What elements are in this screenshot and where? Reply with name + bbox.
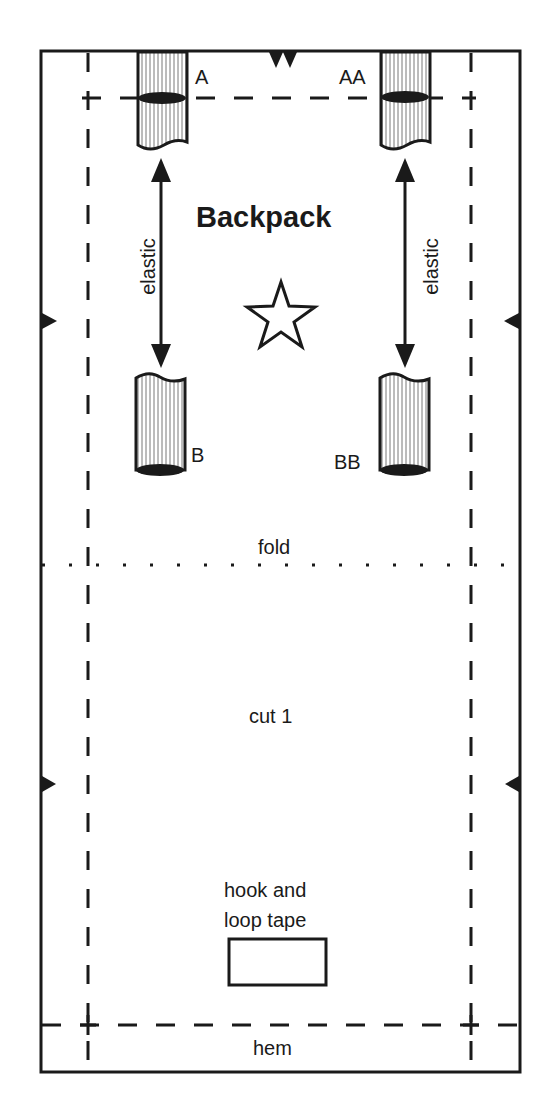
label-aa: AA [339,66,366,89]
elastic-arrow-right [395,158,415,368]
label-cut: cut 1 [249,705,292,728]
label-hem: hem [253,1037,292,1060]
label-hook-loop-1: hook and [224,879,306,902]
strap-aa [381,52,430,149]
strap-bb [380,374,429,476]
double-notch-icon [269,52,297,68]
hook-loop-tape-placement [229,939,326,985]
label-elastic-left: elastic [137,232,160,302]
label-b: B [191,444,204,467]
star-icon [247,282,315,347]
pattern-title: Backpack [196,201,331,234]
label-fold: fold [258,536,290,559]
label-a: A [195,66,208,89]
strap-b [136,374,185,476]
strap-a [138,52,187,149]
label-bb: BB [334,451,361,474]
label-hook-loop-2: loop tape [224,909,306,932]
label-elastic-right: elastic [420,232,443,302]
